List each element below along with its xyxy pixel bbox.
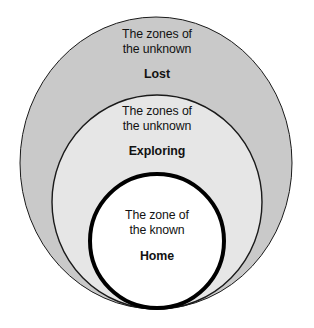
middle-zone-name: Exploring <box>0 144 314 159</box>
inner-zone-name: Home <box>0 249 314 264</box>
outer-zone-label: The zones of the unknown Lost <box>0 27 314 82</box>
outer-zone-description-line2: the unknown <box>0 42 314 57</box>
inner-zone-label: The zone of the known Home <box>0 208 314 264</box>
inner-zone-description-line2: the known <box>0 223 314 238</box>
outer-zone-description-line1: The zones of <box>0 27 314 42</box>
outer-zone-name: Lost <box>0 67 314 82</box>
inner-zone-description-line1: The zone of <box>0 208 314 223</box>
zones-diagram: The zones of the unknown Lost The zones … <box>0 0 314 328</box>
middle-zone-label: The zones of the unknown Exploring <box>0 104 314 159</box>
middle-zone-description-line2: the unknown <box>0 119 314 134</box>
middle-zone-description-line1: The zones of <box>0 104 314 119</box>
